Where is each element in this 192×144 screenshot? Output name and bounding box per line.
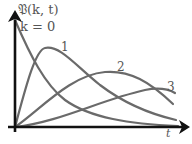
curve-label-1: 1 bbox=[61, 41, 69, 53]
x-axis-label: t bbox=[166, 128, 170, 139]
curve-label-k0: k = 0 bbox=[20, 20, 55, 33]
y-axis-label: 𝔓(k, t) bbox=[18, 3, 59, 16]
curve-label-2: 2 bbox=[117, 61, 125, 73]
curve-label-3: 3 bbox=[167, 81, 175, 93]
poisson-probability-diagram: 𝔓(k, t) k = 0 1 2 3 t bbox=[0, 0, 192, 144]
